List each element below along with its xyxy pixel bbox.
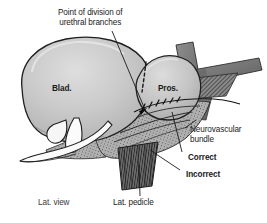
callout-line-1: Point of division of [58,8,122,18]
callout-point-of-division: Point of division of urethral branches [58,8,122,27]
label-neurovascular-bundle: Neurovascular bundle [190,125,242,144]
anatomical-figure: Point of division of urethral branches B… [0,0,267,223]
lateral-pedicle [118,142,158,190]
label-bladder: Blad. [52,84,72,94]
label-prostate: Pros. [158,84,178,94]
label-lateral-view: Lat. view [38,198,69,208]
neurovascular-line-1: Neurovascular [190,125,242,135]
label-lateral-pedicle: Lat. pedicle [113,198,154,208]
neurovascular-line-2: bundle [190,135,242,145]
callout-line-2: urethral branches [58,18,122,28]
illustration-canvas [0,0,267,223]
label-correct: Correct [188,153,216,163]
label-incorrect: Incorrect [186,170,220,180]
